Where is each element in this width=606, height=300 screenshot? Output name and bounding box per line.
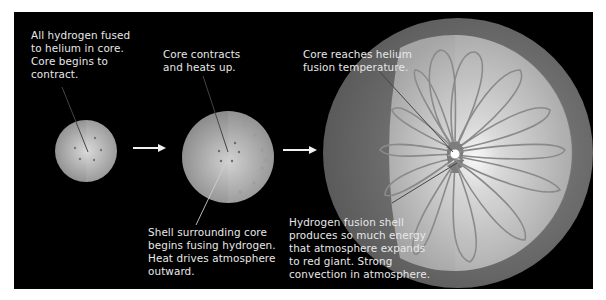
right-arrow-icon <box>133 144 166 152</box>
stage-1-caption: All hydrogen fused to helium in core. Co… <box>31 29 130 81</box>
stage-2-bottom-caption: Shell surrounding core begins fusing hyd… <box>148 226 276 278</box>
stage-3-bottom-caption: Hydrogen fusion shell produces so much e… <box>289 216 430 281</box>
stage-3-top-caption: Core reaches helium fusion temperature. <box>303 48 412 74</box>
star-stage-1 <box>55 87 117 182</box>
stage-2-top-caption: Core contracts and heats up. <box>163 48 240 74</box>
star-stage-2 <box>182 76 274 225</box>
diagram-panel: All hydrogen fused to helium in core. Co… <box>14 12 593 289</box>
right-arrow-icon <box>283 146 317 154</box>
